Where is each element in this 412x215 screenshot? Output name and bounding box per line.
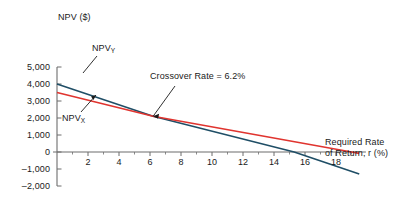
x-tick-label-10: 10 [202,157,222,168]
npv-y-series-label: NPVY [92,43,115,54]
npv-x-series-label-main: NPV [62,113,81,123]
y-tick-label-2000: 2,000 [8,113,50,124]
y-tick-label-5000: 5,000 [8,62,50,73]
series-line-npv-x [57,93,359,154]
y-tick-label-1000: 1,000 [8,130,50,141]
npv-x-series-label-subscript: X [81,117,85,124]
crossover-rate-annotation: Crossover Rate = 6.2% [150,71,245,82]
npv-profile-chart: NPV ($) 5,000 4,000 3,000 2,000 1,000 0 … [0,0,412,215]
x-tick-label-14: 14 [264,157,284,168]
chart-canvas [0,0,412,215]
x-tick-label-2: 2 [78,157,98,168]
x-tick-label-4: 4 [109,157,129,168]
npv-y-leader-line [83,56,97,73]
x-tick-label-16: 16 [295,157,315,168]
crossover-leader-line [153,86,175,116]
npv-y-series-label-subscript: Y [111,47,115,54]
y-tick-label-4000: 4,000 [8,79,50,90]
x-tick-label-8: 8 [171,157,191,168]
x-tick-label-6: 6 [140,157,160,168]
y-tick-label-neg1000: –1,000 [8,164,50,175]
npv-x-series-label: NPVX [62,113,85,124]
y-tick-label-neg2000: –2,000 [8,181,50,192]
x-axis-title-line2: of Return, r (%) [325,148,388,158]
x-axis-title-line1: Required Rate [325,137,384,147]
x-axis-title: Required Rate of Return, r (%) [325,137,412,160]
y-tick-label-3000: 3,000 [8,96,50,107]
y-axis-title: NPV ($) [58,12,91,23]
npv-y-series-label-main: NPV [92,43,111,53]
x-tick-label-12: 12 [233,157,253,168]
y-tick-label-0: 0 [8,147,50,158]
